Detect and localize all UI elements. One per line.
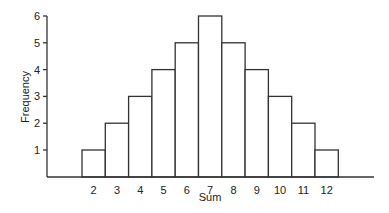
bar-12 (315, 150, 338, 177)
bar-9 (245, 70, 268, 177)
y-tick-label: 4 (34, 64, 40, 76)
y-tick-label: 3 (34, 90, 40, 102)
x-tick-label: 3 (114, 184, 120, 196)
bar-3 (105, 123, 128, 177)
x-tick-label: 9 (254, 184, 260, 196)
x-tick-label: 2 (91, 184, 97, 196)
bar-7 (199, 16, 222, 177)
histogram-chart: 123456 23456789101112 Sum Frequency (0, 0, 389, 213)
bar-4 (129, 96, 152, 177)
y-axis-title: Frequency (19, 71, 31, 123)
x-tick-label: 12 (321, 184, 333, 196)
bar-6 (175, 43, 198, 177)
bar-8 (222, 43, 245, 177)
x-tick-label: 6 (184, 184, 190, 196)
y-tick-label: 1 (34, 144, 40, 156)
x-tick-label: 10 (274, 184, 286, 196)
x-tick-label: 4 (137, 184, 143, 196)
y-ticks-group: 123456 (34, 10, 47, 156)
x-tick-label: 5 (160, 184, 166, 196)
y-tick-label: 2 (34, 117, 40, 129)
bar-5 (152, 70, 175, 177)
bar-2 (82, 150, 105, 177)
bar-11 (292, 123, 315, 177)
x-tick-label: 11 (298, 184, 309, 196)
y-tick-label: 6 (34, 10, 40, 22)
x-axis-title: Sum (199, 191, 222, 203)
y-tick-label: 5 (34, 37, 40, 49)
bar-10 (268, 96, 291, 177)
bars-group (82, 16, 338, 177)
x-tick-label: 8 (230, 184, 236, 196)
